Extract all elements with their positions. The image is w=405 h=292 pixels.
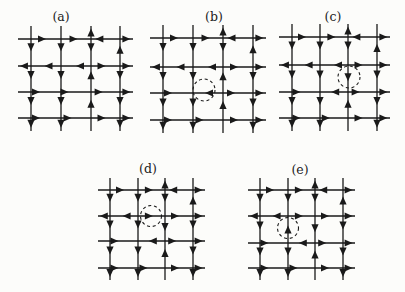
panel-a-label: (a)	[52, 9, 69, 24]
lattice-figure: (a) (b) (c) (d) (e)	[0, 0, 405, 292]
panel-b-label: (b)	[205, 9, 223, 24]
panel-c-label: (c)	[325, 9, 342, 24]
figure-wrap: (a) (b) (c) (d) (e)	[0, 0, 405, 292]
panel-d-label: (d)	[139, 161, 157, 176]
panel-e-label: (e)	[291, 162, 308, 177]
